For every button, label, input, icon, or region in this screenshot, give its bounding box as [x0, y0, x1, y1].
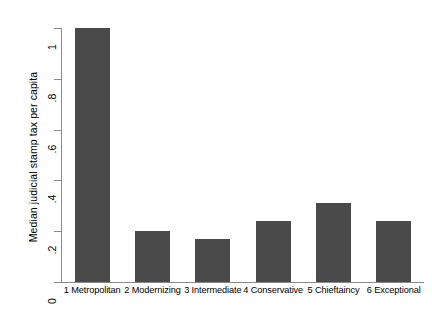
y-axis-title: Median judicial stamp tax per capita	[22, 32, 44, 282]
bar-slot	[364, 28, 424, 282]
y-tick-label: 1	[46, 27, 58, 67]
x-axis-labels: 1 Metropolitan2 Modernizing3 Intermediat…	[62, 285, 424, 295]
bar-slot	[183, 28, 243, 282]
bar-slot	[243, 28, 303, 282]
bar	[135, 231, 170, 282]
bar	[316, 203, 351, 282]
y-tick-label: .4	[46, 179, 58, 219]
y-tick-label: .2	[46, 230, 58, 270]
y-tick-label: 0	[46, 281, 58, 318]
y-tick-label: .8	[46, 78, 58, 118]
y-tick-label: .6	[46, 129, 58, 169]
x-axis-line	[61, 282, 424, 283]
x-tick-label: 3 Intermediate	[183, 285, 243, 295]
bar-chart: Median judicial stamp tax per capita 0.2…	[0, 0, 432, 318]
bar	[195, 239, 230, 282]
bar	[376, 221, 411, 282]
x-tick-label: 5 Chieftaincy	[303, 285, 363, 295]
x-tick-label: 4 Conservative	[243, 285, 303, 295]
x-tick-label: 6 Exceptional	[364, 285, 424, 295]
bar-slot	[122, 28, 182, 282]
bar	[256, 221, 291, 282]
x-tick-label: 2 Modernizing	[122, 285, 182, 295]
bar-series	[62, 28, 424, 282]
x-tick-label: 1 Metropolitan	[62, 285, 122, 295]
bar-slot	[62, 28, 122, 282]
bar	[75, 28, 110, 282]
bar-slot	[303, 28, 363, 282]
